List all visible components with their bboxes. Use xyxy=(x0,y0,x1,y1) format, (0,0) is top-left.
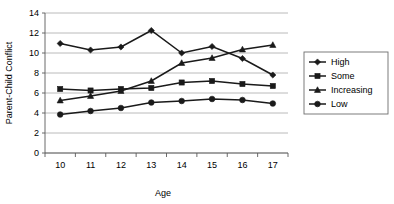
data-point xyxy=(118,44,124,50)
x-tick-label: 16 xyxy=(237,160,247,170)
y-tick-label: 10 xyxy=(29,48,39,58)
x-tick-label: 15 xyxy=(207,160,217,170)
y-tick-label: 14 xyxy=(29,8,39,18)
data-point xyxy=(87,47,93,53)
data-point xyxy=(240,81,245,86)
line-chart: 02468101214 1011121314151617 Parent-Chil… xyxy=(0,0,394,204)
legend-marker xyxy=(315,101,321,107)
x-tick-label: 13 xyxy=(146,160,156,170)
data-point xyxy=(270,83,275,88)
legend-label: Increasing xyxy=(331,85,373,95)
data-point xyxy=(179,98,185,104)
series-some xyxy=(58,78,276,93)
x-tick-labels-group: 1011121314151617 xyxy=(45,153,288,170)
data-point xyxy=(57,40,63,46)
data-point xyxy=(148,100,154,106)
data-point xyxy=(209,43,215,49)
legend-label: Low xyxy=(331,99,348,109)
data-point xyxy=(118,105,124,111)
y-tick-label: 8 xyxy=(34,68,39,78)
y-tick-label: 6 xyxy=(34,88,39,98)
data-point xyxy=(88,108,94,114)
legend: HighSomeIncreasingLow xyxy=(304,52,388,114)
y-tick-label: 2 xyxy=(34,128,39,138)
legend-label: Some xyxy=(331,71,355,81)
x-tick-label: 14 xyxy=(177,160,187,170)
legend-label: High xyxy=(331,57,350,67)
data-point xyxy=(179,80,184,85)
y-tick-label: 4 xyxy=(34,108,39,118)
data-point xyxy=(239,55,245,61)
y-tick-labels-group: 02468101214 xyxy=(29,8,45,158)
y-tick-label: 0 xyxy=(34,148,39,158)
series-group xyxy=(57,27,276,117)
x-tick-label: 11 xyxy=(86,160,95,170)
data-point xyxy=(149,85,154,90)
x-tick-label: 17 xyxy=(268,160,278,170)
x-tick-label: 10 xyxy=(55,160,65,170)
data-point xyxy=(270,101,276,107)
data-point xyxy=(57,112,63,118)
data-point xyxy=(58,86,63,91)
data-point xyxy=(209,78,214,83)
legend-marker xyxy=(315,73,320,78)
series-low xyxy=(57,96,275,117)
x-tick-label: 12 xyxy=(116,160,126,170)
chart-container: 02468101214 1011121314151617 Parent-Chil… xyxy=(0,0,394,204)
data-point xyxy=(209,96,215,102)
gridlines-group xyxy=(45,13,288,153)
axes-group xyxy=(45,13,288,153)
x-axis-title: Age xyxy=(155,188,171,198)
data-point xyxy=(240,97,246,103)
y-axis-title: Parent-Child Conflict xyxy=(4,41,14,124)
y-tick-label: 12 xyxy=(29,28,39,38)
